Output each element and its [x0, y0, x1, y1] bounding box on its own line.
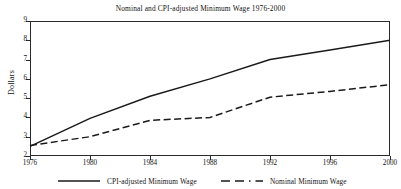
x-tick-label: 1980: [73, 160, 107, 167]
y-tick-label: 8: [7, 36, 27, 43]
legend-swatch-dashed-line-icon: [221, 176, 263, 186]
y-tick-label: 3: [7, 133, 27, 140]
legend-item-cpi-adjusted[interactable]: CPI-adjusted Minimum Wage: [58, 175, 197, 187]
y-tick-label: 6: [7, 75, 27, 82]
chart-title: Nominal and CPI-adjusted Minimum Wage 19…: [0, 4, 401, 13]
x-tick-label: 1984: [133, 160, 167, 167]
x-tick-label: 1988: [193, 160, 227, 167]
x-tick-label: 1992: [253, 160, 287, 167]
legend-label-cpi-adjusted: CPI-adjusted Minimum Wage: [107, 177, 197, 186]
x-tick-label: 1996: [313, 160, 347, 167]
x-tick-label: 1976: [13, 160, 47, 167]
chart-figure: Nominal and CPI-adjusted Minimum Wage 19…: [0, 0, 401, 189]
y-tick-label: 4: [7, 113, 27, 120]
legend-swatch-solid-line-icon: [58, 176, 100, 186]
y-tick-label: 7: [7, 56, 27, 63]
x-tick-label: 2000: [373, 160, 401, 167]
y-tick-label: 5: [7, 94, 27, 101]
chart-legend: CPI-adjusted Minimum Wage Nominal Minimu…: [0, 175, 401, 189]
y-tick-label: 9: [7, 17, 27, 24]
legend-label-nominal: Nominal Minimum Wage: [270, 177, 347, 186]
plot-area: [30, 21, 390, 156]
legend-item-nominal[interactable]: Nominal Minimum Wage: [221, 175, 347, 187]
